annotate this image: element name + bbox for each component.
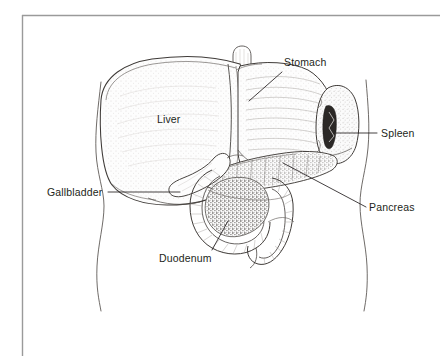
label-pancreas: Pancreas [369, 201, 415, 213]
label-spleen: Spleen [381, 127, 415, 139]
label-stomach: Stomach [284, 56, 327, 68]
anatomy-figure: Stomach Spleen Pancreas Gallbladder Duod… [0, 0, 440, 356]
label-gallbladder: Gallbladder [47, 186, 102, 198]
label-liver: Liver [157, 113, 181, 125]
anatomy-illustration [0, 0, 440, 356]
label-duodenum: Duodenum [159, 252, 212, 264]
